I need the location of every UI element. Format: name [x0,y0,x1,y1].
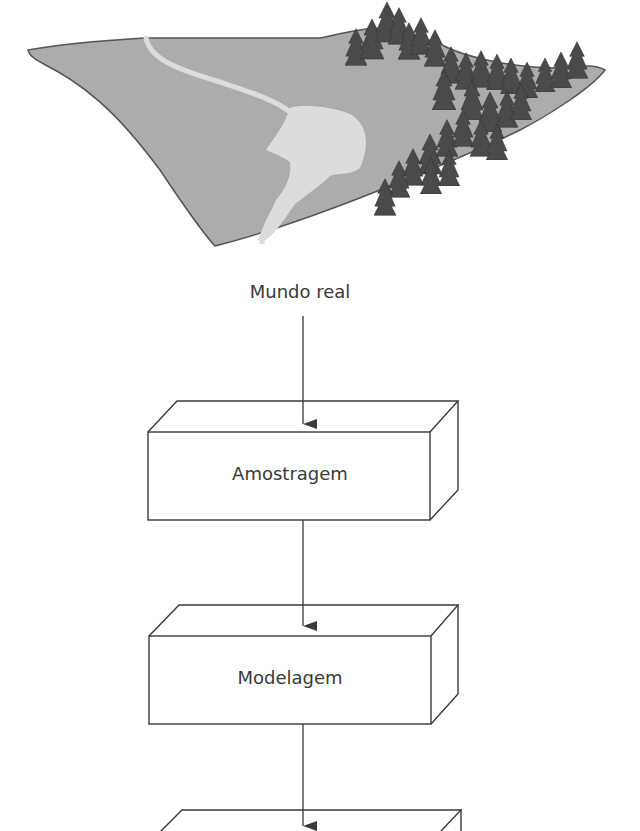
real-world-terrain-illustration [28,2,605,246]
stage-box-third [160,810,461,831]
stage-label-modeling: Modelagem [237,667,342,688]
flow-diagram [0,0,640,831]
stage-label-sampling: Amostragem [232,463,348,484]
source-label-real-world: Mundo real [250,281,351,302]
